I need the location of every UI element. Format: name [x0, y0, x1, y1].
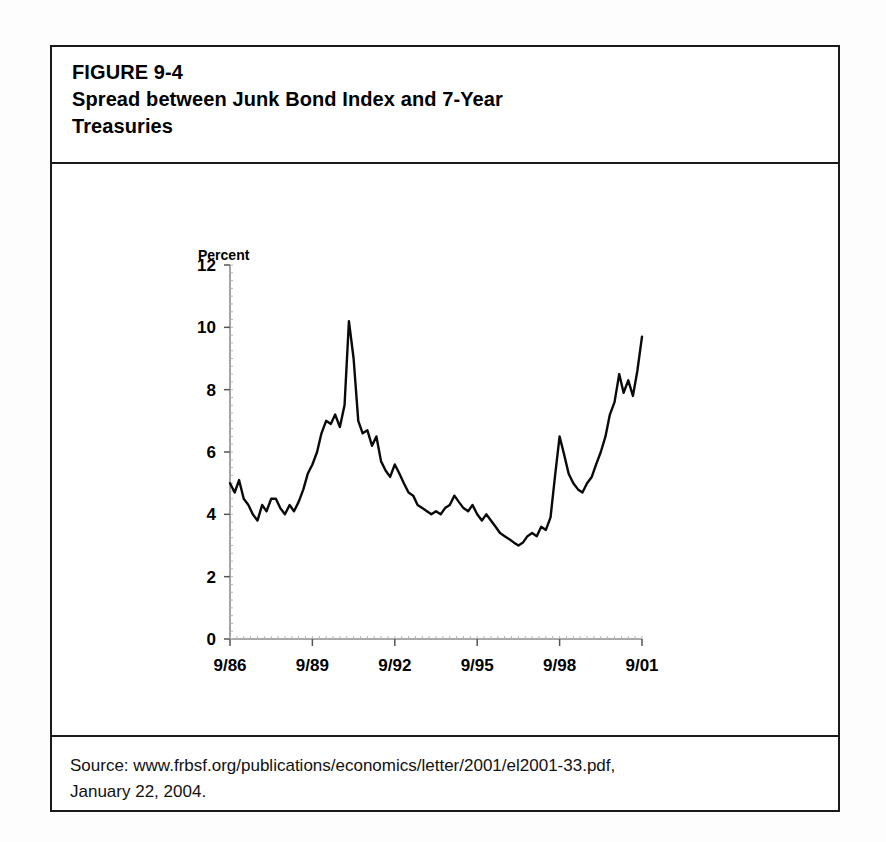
y-tick-label: 2: [207, 568, 216, 587]
figure-title-line-2: Treasuries: [72, 113, 503, 140]
line-chart: Percent 024681012 9/869/899/929/959/989/…: [52, 164, 838, 735]
y-tick-label: 8: [207, 381, 216, 400]
x-tick-label: 9/01: [625, 656, 658, 675]
x-axis-ticks: [230, 639, 642, 646]
x-tick-label: 9/89: [296, 656, 329, 675]
figure-title-line-1: Spread between Junk Bond Index and 7-Yea…: [72, 86, 503, 113]
figure-source: Source: www.frbsf.org/publications/econo…: [70, 753, 824, 805]
y-axis-ticks: [224, 265, 230, 639]
source-line-1: Source: www.frbsf.org/publications/econo…: [70, 753, 824, 779]
y-tick-label: 10: [197, 318, 216, 337]
series-line: [230, 321, 642, 545]
source-line-2: January 22, 2004.: [70, 779, 824, 805]
figure-source-band: Source: www.frbsf.org/publications/econo…: [52, 735, 838, 810]
y-axis-tick-labels: 024681012: [197, 256, 216, 649]
figure-title-band: FIGURE 9-4 Spread between Junk Bond Inde…: [52, 47, 838, 164]
x-axis-minor-ticks: [230, 265, 642, 639]
y-tick-label: 4: [207, 505, 217, 524]
page-root: FIGURE 9-4 Spread between Junk Bond Inde…: [0, 0, 886, 842]
y-tick-label: 12: [197, 256, 216, 275]
x-tick-label: 9/98: [543, 656, 576, 675]
data-series-group: [230, 321, 642, 545]
y-tick-label: 6: [207, 443, 216, 462]
chart-area: Percent 024681012 9/869/899/929/959/989/…: [52, 164, 838, 735]
x-tick-label: 9/92: [378, 656, 411, 675]
figure-number: FIGURE 9-4: [72, 59, 503, 86]
figure-box: FIGURE 9-4 Spread between Junk Bond Inde…: [50, 45, 840, 812]
figure-title: FIGURE 9-4 Spread between Junk Bond Inde…: [72, 59, 503, 140]
x-axis-tick-labels: 9/869/899/929/959/989/01: [213, 656, 658, 675]
x-tick-label: 9/95: [461, 656, 494, 675]
x-tick-label: 9/86: [213, 656, 246, 675]
y-tick-label: 0: [207, 630, 216, 649]
